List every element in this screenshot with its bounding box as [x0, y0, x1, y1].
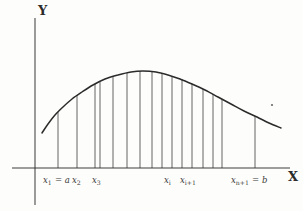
tick-label-subscript: n+1 [236, 179, 249, 186]
x-tick-label-xi: xi [164, 176, 171, 185]
ordinate-lines-group [58, 71, 255, 168]
x-tick-label-xi1: xi+1 [180, 176, 196, 185]
tick-label-subscript: 1 [48, 179, 52, 186]
tick-label-subscript: i [169, 179, 171, 186]
tick-label-subscript: 2 [77, 179, 81, 186]
ink-marks-group [271, 104, 273, 106]
function-curve [42, 71, 281, 133]
tick-label-suffix: = b [249, 175, 268, 185]
riemann-sum-figure: Y X x1 = ax2x3xixi+1xn+1 = b [0, 0, 303, 211]
x-tick-label-x3: x3 [92, 176, 101, 185]
tick-label-subscript: 3 [97, 179, 101, 186]
tick-label-subscript: i+1 [185, 179, 196, 186]
x-tick-label-x1: x1 = a [43, 176, 70, 185]
x-tick-label-xn1: xn+1 = b [231, 176, 268, 185]
tick-label-suffix: = a [52, 175, 71, 185]
y-axis-label: Y [38, 4, 48, 17]
ink-speck [271, 104, 273, 106]
x-tick-label-x2: x2 [72, 176, 81, 185]
x-axis-label: X [288, 170, 299, 183]
